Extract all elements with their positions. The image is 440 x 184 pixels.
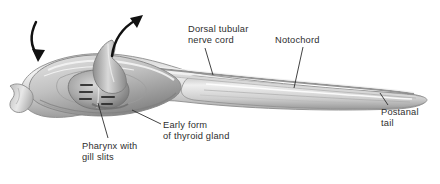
leader-nerve-cord: [205, 48, 213, 75]
label-thyroid-gland: Early form of thyroid gland: [163, 120, 230, 142]
leader-thyroid: [132, 110, 161, 124]
label-dorsal-nerve-cord: Dorsal tubular nerve cord: [188, 24, 248, 46]
larva-anatomy-figure: Dorsal tubular nerve cord Notochord Post…: [0, 0, 440, 184]
label-notochord: Notochord: [275, 35, 320, 46]
label-pharynx: Pharynx with gill slits: [82, 141, 137, 163]
label-postanal-tail: Postanal tail: [381, 107, 419, 129]
incurrent-water-arrow: [32, 22, 45, 62]
excurrent-water-arrow: [112, 15, 143, 56]
